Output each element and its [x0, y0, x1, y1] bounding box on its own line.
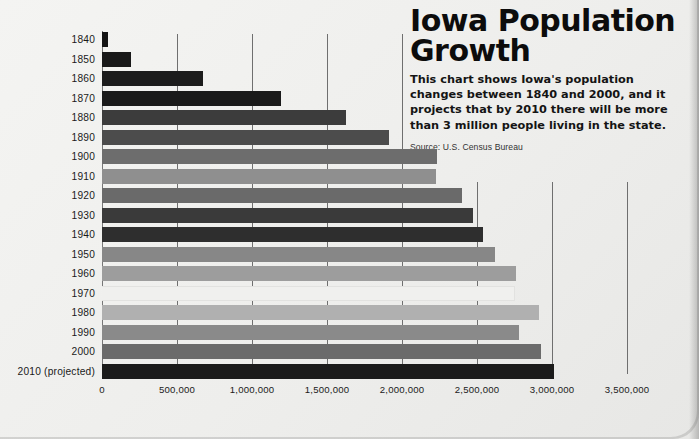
bar-1860 [102, 71, 203, 86]
y-label-1870: 1870 [72, 93, 95, 104]
bar-row [102, 71, 203, 86]
x-label-500000: 500,000 [159, 384, 195, 395]
x-label-1000000: 1,000,000 [230, 384, 274, 395]
y-label-1890: 1890 [72, 132, 95, 143]
bar-2000 [102, 344, 541, 359]
bar-row [102, 208, 473, 223]
y-label-1990: 1990 [72, 327, 95, 338]
y-label-1980: 1980 [72, 307, 95, 318]
y-label-1910: 1910 [72, 171, 95, 182]
bar-row [102, 266, 516, 281]
bar-1990 [102, 325, 519, 340]
bar-2010 [102, 364, 554, 379]
bar-1960 [102, 266, 516, 281]
y-label-1860: 1860 [72, 73, 95, 84]
bar-1880 [102, 110, 346, 125]
bar-row [102, 188, 462, 203]
x-label-3000000: 3,000,000 [530, 384, 574, 395]
bar-row [102, 344, 541, 359]
x-axis-labels: 0500,0001,000,0001,500,0002,000,0002,500… [0, 384, 699, 404]
gridline-1500000 [327, 34, 328, 374]
y-label-1970: 1970 [72, 288, 95, 299]
y-label-1840: 1840 [72, 34, 95, 45]
chart-page: Iowa Population Growth This chart shows … [0, 0, 699, 439]
bar-row [102, 32, 108, 47]
bar-row [102, 130, 389, 145]
x-label-2500000: 2,500,000 [455, 384, 499, 395]
bar-row [102, 91, 281, 106]
y-label-1900: 1900 [72, 151, 95, 162]
bar-1890 [102, 130, 389, 145]
gridline-3500000 [627, 182, 628, 374]
gridline-1000000 [252, 34, 253, 374]
bar-1970 [102, 286, 515, 301]
y-label-2010: 2010 (projected) [18, 366, 95, 377]
bar-1840 [102, 32, 108, 47]
bar-row [102, 227, 483, 242]
bar-1900 [102, 149, 437, 164]
plot-area [102, 31, 627, 374]
y-axis-labels: 1840185018601870188018901900191019201930… [0, 31, 99, 374]
y-label-2000: 2000 [72, 346, 95, 357]
bar-row [102, 149, 437, 164]
bar-row [102, 325, 519, 340]
bar-1910 [102, 169, 436, 184]
y-label-1850: 1850 [72, 54, 95, 65]
bar-1850 [102, 52, 131, 67]
y-label-1880: 1880 [72, 112, 95, 123]
x-label-1500000: 1,500,000 [305, 384, 349, 395]
gridline-3000000 [552, 182, 553, 374]
bar-1980 [102, 305, 539, 320]
y-label-1960: 1960 [72, 268, 95, 279]
bar-row [102, 169, 436, 184]
bar-1940 [102, 227, 483, 242]
bar-row [102, 247, 495, 262]
bar-1870 [102, 91, 281, 106]
bar-row [102, 110, 346, 125]
bar-1950 [102, 247, 495, 262]
bar-row [102, 52, 131, 67]
bar-1930 [102, 208, 473, 223]
x-label-0: 0 [99, 384, 105, 395]
bar-row [102, 364, 554, 379]
y-label-1930: 1930 [72, 210, 95, 221]
bar-row [102, 305, 539, 320]
y-label-1950: 1950 [72, 249, 95, 260]
y-label-1940: 1940 [72, 229, 95, 240]
bar-1920 [102, 188, 462, 203]
gridline-2000000 [402, 34, 403, 374]
x-label-3500000: 3,500,000 [605, 384, 649, 395]
bar-row [102, 286, 515, 301]
y-label-1920: 1920 [72, 190, 95, 201]
x-label-2000000: 2,000,000 [380, 384, 424, 395]
